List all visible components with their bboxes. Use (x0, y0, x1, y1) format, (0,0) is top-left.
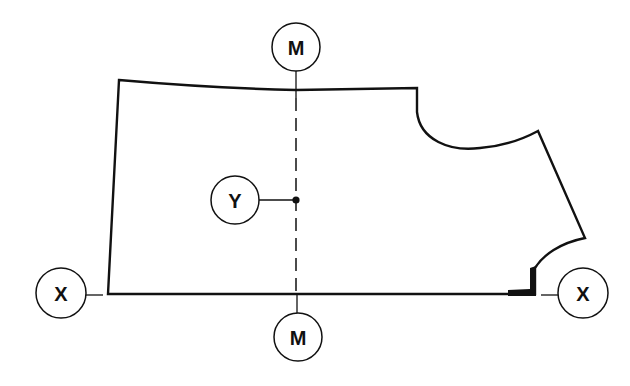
x-left-label: X (54, 283, 68, 305)
x-right-label: X (576, 283, 590, 305)
x-right-marker: X (558, 268, 608, 318)
m-bottom-marker: M (274, 313, 322, 361)
pattern-diagram: M M X X Y (0, 0, 630, 386)
y-point (292, 196, 299, 203)
pattern-outline (108, 80, 585, 294)
y-marker: Y (211, 176, 259, 224)
m-top-label: M (288, 37, 305, 59)
y-label: Y (228, 190, 242, 212)
m-bottom-label: M (290, 327, 307, 349)
x-left-marker: X (36, 268, 86, 318)
m-top-marker: M (272, 23, 320, 71)
corner-mark (508, 266, 536, 296)
